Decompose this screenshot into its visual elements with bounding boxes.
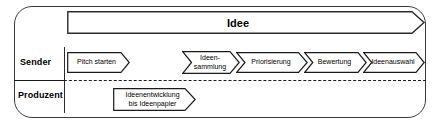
lane-separator-solid bbox=[14, 80, 65, 81]
step-line: bis Ideenpapier bbox=[129, 100, 177, 108]
step-line: sammlung bbox=[194, 63, 226, 71]
step-ideensammlung[interactable]: Ideen- sammlung bbox=[182, 51, 240, 74]
step-pitch-starten[interactable]: Pitch starten bbox=[67, 52, 130, 73]
lane-label-produzent: Produzent bbox=[18, 90, 63, 100]
step-ideenauswahl-label: Ideenauswahl bbox=[363, 52, 425, 73]
idee-banner: Idee bbox=[67, 11, 425, 34]
step-ideenauswahl[interactable]: Ideenauswahl bbox=[363, 52, 425, 73]
step-priorisierung[interactable]: Priorisierung bbox=[236, 52, 308, 73]
step-line: Ideenentwicklung bbox=[125, 91, 179, 99]
step-ideenentwicklung[interactable]: Ideenentwicklung bis Ideenpapier bbox=[113, 88, 196, 111]
step-line: Pitch starten bbox=[77, 58, 116, 66]
step-bewertung[interactable]: Bewertung bbox=[304, 52, 367, 73]
lane-separator-dashed bbox=[14, 80, 426, 81]
step-line: Ideen- bbox=[200, 54, 220, 62]
lane-label-sender: Sender bbox=[20, 57, 51, 67]
diagram-canvas: Idee Sender Produzent Pitch starten Idee… bbox=[0, 0, 440, 127]
idee-banner-label: Idee bbox=[67, 11, 409, 34]
step-bewertung-label: Bewertung bbox=[304, 52, 367, 73]
step-ideenentwicklung-label: Ideenentwicklung bis Ideenpapier bbox=[113, 88, 196, 111]
step-ideensammlung-label: Ideen- sammlung bbox=[182, 51, 240, 74]
step-priorisierung-label: Priorisierung bbox=[236, 52, 308, 73]
step-line: Bewertung bbox=[318, 58, 351, 66]
step-pitch-starten-label: Pitch starten bbox=[67, 52, 130, 73]
step-line: Ideenauswahl bbox=[371, 58, 414, 66]
step-line: Priorisierung bbox=[251, 58, 290, 66]
